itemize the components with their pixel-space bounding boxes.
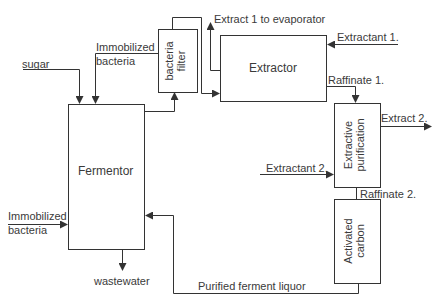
bacteria-filter-label-line2: filter [175, 31, 187, 91]
raffinate2-label: Raffinate 2. [360, 188, 416, 200]
extractive-purification-label: Extractive purification [342, 100, 372, 190]
bacteria-filter-label: bacteria filter [163, 31, 193, 91]
extract1-label: Extract 1 to evaporator [214, 13, 325, 25]
extractor-label: Extractor [249, 62, 297, 74]
immobilized-bacteria-left-label-1: Immobilized [8, 210, 67, 222]
activated-carbon-label-line1: Activated [342, 206, 354, 276]
raffinate1-label: Raffinate 1. [328, 74, 384, 86]
bacteria-filter-label-line1: bacteria [163, 31, 175, 91]
fermentor-to-filter-arrow [144, 93, 175, 112]
extractant1-label: Extractant 1. [337, 31, 399, 43]
sugar-stream-arrow [23, 70, 80, 104]
extractive-purification-label-line2: purification [354, 100, 366, 190]
fermentor-label: Fermentor [78, 165, 133, 177]
activated-carbon-label-line2: carbon [354, 206, 366, 276]
activated-carbon-label: Activated carbon [342, 206, 372, 276]
immobilized-bacteria-top-label-2: bacteria [96, 55, 135, 67]
extract2-label: Extract 2. [381, 112, 427, 124]
wastewater-label: wastewater [94, 275, 150, 287]
extract1-arrow [211, 23, 221, 71]
extractive-purification-label-line1: Extractive [342, 100, 354, 190]
sugar-label: sugar [22, 58, 50, 70]
immobilized-bacteria-left-label-2: bacteria [8, 224, 47, 236]
immobilized-bacteria-top-label-1: Immobilized [96, 41, 155, 53]
purified-liquor-label: Purified ferment liquor [198, 280, 306, 292]
extractant2-label: Extractant 2. [266, 162, 328, 174]
